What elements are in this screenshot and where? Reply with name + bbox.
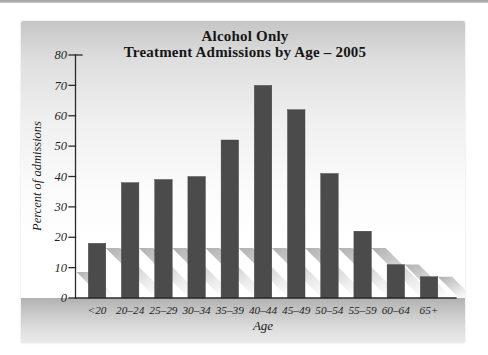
y-tick-label: 20 (55, 230, 68, 244)
y-tick-label: 50 (55, 139, 68, 153)
bar (254, 85, 271, 298)
bar (221, 140, 239, 298)
y-tick-label: 60 (55, 109, 68, 123)
x-category-label: 30–34 (181, 304, 211, 316)
page: { "chart_data": { "type": "bar", "title_… (0, 0, 488, 355)
y-tick-label: 70 (55, 79, 68, 93)
bar (121, 183, 138, 298)
bar (188, 177, 206, 299)
bar-chart: 01020304050607080<2020–2425–2930–3435–39… (0, 0, 488, 355)
x-category-label: 35–39 (215, 304, 245, 316)
x-category-label: 20–24 (116, 304, 145, 316)
bar (155, 180, 173, 299)
bar (288, 110, 306, 298)
x-category-label: 45–49 (282, 304, 311, 316)
x-category-label: 50–54 (315, 304, 344, 316)
y-tick-label: 0 (61, 291, 68, 305)
x-category-label: 65+ (420, 304, 439, 316)
x-category-label: 55–59 (348, 304, 377, 316)
y-tick-label: 40 (55, 170, 68, 184)
bar (387, 265, 405, 298)
y-tick-label: 80 (55, 48, 68, 62)
x-category-label: 25–29 (149, 304, 178, 316)
bar (354, 231, 372, 298)
x-category-label: <20 (88, 304, 107, 316)
x-category-label: 40–44 (249, 304, 278, 316)
y-tick-label: 10 (55, 261, 68, 275)
bar (88, 243, 106, 298)
y-tick-label: 30 (54, 200, 68, 214)
x-category-label: 60–64 (382, 304, 411, 316)
bar (321, 174, 339, 299)
bar (420, 277, 438, 298)
